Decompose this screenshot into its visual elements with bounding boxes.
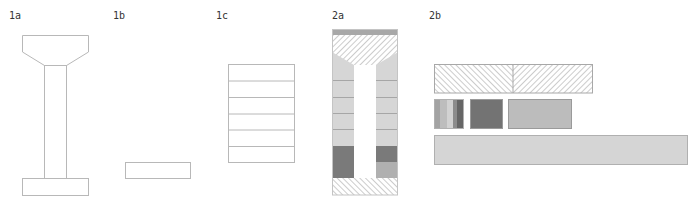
- hatched-bar-left: [434, 64, 513, 93]
- hatched-base: [332, 178, 398, 195]
- diagram-canvas: [0, 0, 694, 204]
- column-outline-1a: [23, 36, 89, 196]
- grey-block: [509, 100, 572, 129]
- dark-block: [471, 100, 503, 129]
- column-shaft: [45, 66, 67, 179]
- right-dark-cell: [376, 146, 398, 162]
- column-base: [23, 179, 89, 196]
- hatched-bar-right: [513, 64, 592, 93]
- composite-column-2a: [332, 29, 398, 195]
- long-bar: [435, 136, 688, 165]
- stripe-block: [434, 99, 464, 129]
- right-mid-cell: [376, 162, 398, 178]
- left-dark-cell: [332, 146, 354, 178]
- slab-1b: [126, 163, 191, 179]
- column-capital: [23, 36, 89, 66]
- stacked-rows-1c: [229, 65, 295, 163]
- blocks-2b: [434, 64, 688, 165]
